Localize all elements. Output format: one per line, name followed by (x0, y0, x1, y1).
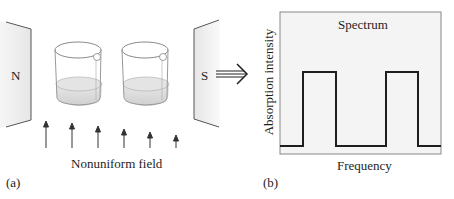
triple-arrow-icon (216, 64, 247, 84)
plot-frame (280, 12, 441, 154)
beaker-icon (122, 42, 169, 106)
arrow-up-icon (148, 132, 153, 148)
arrow-up-icon (174, 135, 179, 148)
magnet-south-label: S (201, 69, 208, 82)
arrow-up-icon (122, 129, 127, 148)
chart-title: Spectrum (338, 18, 388, 31)
arrow-up-icon (70, 123, 75, 148)
arrow-up-icon (44, 121, 49, 148)
panel-a-label: (a) (6, 176, 20, 189)
panel-b-label: (b) (263, 176, 278, 189)
field-arrows (44, 121, 179, 148)
beaker-icon (55, 42, 102, 106)
x-axis-label: Frequency (337, 159, 392, 172)
magnet-north-label: N (11, 69, 20, 82)
arrow-up-icon (96, 126, 101, 148)
y-axis-label: Absorption intensity (261, 29, 277, 136)
field-caption: Nonuniform field (71, 157, 162, 170)
